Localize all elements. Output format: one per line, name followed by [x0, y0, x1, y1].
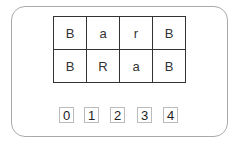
grid-cell[interactable]: B	[54, 17, 87, 50]
grid-cell[interactable]: r	[120, 17, 153, 50]
grid-cell[interactable]: B	[54, 50, 87, 83]
number-slot-3[interactable]: 3	[137, 107, 152, 123]
number-slot-1[interactable]: 1	[84, 107, 99, 123]
number-slot-2[interactable]: 2	[110, 107, 125, 123]
letter-grid: B a r B B R a B	[53, 16, 186, 83]
grid-cell[interactable]: B	[153, 50, 186, 83]
grid-cell[interactable]: a	[87, 17, 120, 50]
number-slot-0[interactable]: 0	[59, 107, 74, 123]
grid-cell[interactable]: R	[87, 50, 120, 83]
grid-row: B R a B	[54, 50, 186, 83]
grid-cell[interactable]: B	[153, 17, 186, 50]
grid-cell[interactable]: a	[120, 50, 153, 83]
number-slot-4[interactable]: 4	[163, 107, 178, 123]
grid-row: B a r B	[54, 17, 186, 50]
